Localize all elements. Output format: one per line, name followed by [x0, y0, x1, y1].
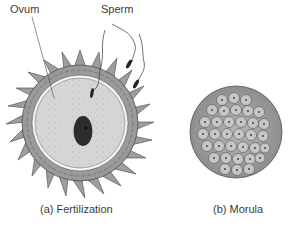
caption-morula: (b) Morula — [213, 203, 263, 215]
caption-fertilization: (a) Fertilization — [40, 203, 113, 215]
sperm-label: Sperm — [101, 3, 133, 15]
ovum-nucleus — [74, 116, 93, 146]
ovum-label: Ovum — [10, 3, 39, 15]
morula — [190, 86, 282, 178]
